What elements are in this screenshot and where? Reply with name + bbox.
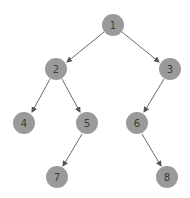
node-2: 2: [45, 58, 67, 80]
node-7: 7: [46, 166, 68, 188]
node-6: 6: [126, 112, 148, 134]
node-label: 4: [21, 118, 27, 129]
node-label: 2: [53, 64, 59, 75]
node-label: 6: [134, 118, 140, 129]
edge-1-2: [67, 32, 104, 62]
node-label: 1: [110, 20, 116, 31]
edge-3-6: [144, 79, 164, 112]
edge-1-3: [122, 32, 159, 62]
node-label: 3: [167, 64, 173, 75]
node-label: 5: [84, 118, 90, 129]
node-8: 8: [156, 166, 178, 188]
edge-5-7: [63, 134, 82, 166]
node-3: 3: [159, 58, 181, 80]
node-label: 7: [54, 172, 60, 183]
node-label: 8: [164, 172, 170, 183]
edge-6-8: [142, 134, 161, 166]
tree-diagram: 1 2 3 4 5 6 7 8: [0, 0, 190, 198]
node-1: 1: [102, 14, 124, 36]
edge-2-5: [62, 79, 80, 112]
node-4: 4: [13, 112, 35, 134]
edge-2-4: [32, 79, 50, 112]
node-5: 5: [76, 112, 98, 134]
